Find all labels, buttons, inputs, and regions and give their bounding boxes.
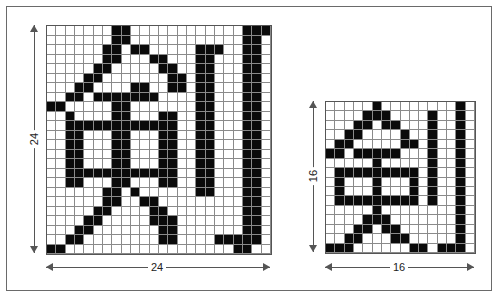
pixel-off [354,111,363,120]
pixel-off [224,245,233,255]
pixel-off [262,216,271,226]
pixel-off [56,64,65,74]
pixel-off [419,121,428,130]
pixel-off [47,226,56,236]
pixel-on [140,197,149,207]
pixel-on [112,169,121,179]
pixel-off [215,55,224,65]
pixel-on [326,244,335,253]
pixel-off [206,26,215,36]
pixel-off [47,121,56,131]
pixel-off [419,149,428,158]
pixel-off [262,207,271,217]
pixel-off [215,93,224,103]
pixel-on [456,225,465,234]
pixel-off [178,93,187,103]
pixel-off [66,83,75,93]
pixel-off [438,159,447,168]
pixel-off [262,102,271,112]
pixel-on [206,112,215,122]
pixel-off [187,159,196,169]
pixel-on [56,245,65,255]
pixel-off [84,64,93,74]
pixel-off [438,102,447,111]
pixel-on [252,36,261,46]
pixel-on [168,235,177,245]
pixel-on [243,207,252,217]
pixel-off [438,140,447,149]
pixel-off [262,226,271,236]
pixel-on [168,150,177,160]
pixel-off [447,168,456,177]
pixel-off [234,188,243,198]
pixel-on [103,45,112,55]
pixel-off [391,111,400,120]
pixel-off [122,216,131,226]
pixel-off [75,245,84,255]
pixel-off [178,64,187,74]
pixel-off [122,83,131,93]
pixel-off [466,178,475,187]
pixel-off [122,226,131,236]
pixel-off [94,235,103,245]
pixel-off [224,74,233,84]
pixel-on [196,112,205,122]
pixel-on [75,121,84,131]
pixel-off [150,102,159,112]
pixel-off [140,131,149,141]
pixel-off [150,131,159,141]
pixel-off [438,111,447,120]
pixel-off [438,149,447,158]
pixel-on [401,130,410,139]
pixel-off [56,55,65,65]
pixel-off [131,235,140,245]
pixel-on [94,64,103,74]
pixel-off [363,102,372,111]
pixel-on [382,196,391,205]
pixel-off [56,112,65,122]
pixel-off [466,140,475,149]
pixel-on [243,36,252,46]
pixel-on [112,159,121,169]
pixel-off [140,55,149,65]
pixel-off [363,130,372,139]
pixel-on [243,226,252,236]
pixel-on [206,64,215,74]
pixel-off [140,74,149,84]
pixel-off [215,64,224,74]
pixel-off [168,45,177,55]
pixel-off [224,36,233,46]
pixel-off [234,207,243,217]
pixel-on [428,178,437,187]
pixel-off [262,74,271,84]
pixel-off [94,140,103,150]
pixel-off [84,55,93,65]
pixel-off [215,140,224,150]
pixel-off [428,102,437,111]
pixel-off [150,26,159,36]
pixel-off [47,36,56,46]
pixel-off [438,225,447,234]
pixel-off [466,159,475,168]
pixel-off [75,36,84,46]
pixel-off [103,140,112,150]
pixel-off [131,197,140,207]
pixel-on [428,130,437,139]
pixel-off [262,64,271,74]
pixel-on [47,102,56,112]
pixel-off [438,130,447,139]
pixel-on [243,131,252,141]
pixel-on [373,206,382,215]
pixel-off [373,244,382,253]
pixel-off [56,26,65,36]
pixel-on [122,131,131,141]
pixel-off [47,159,56,169]
pixel-on [243,197,252,207]
pixel-off [168,207,177,217]
pixel-off [262,45,271,55]
pixel-off [326,159,335,168]
pixel-off [140,159,149,169]
pixel-on [373,102,382,111]
pixel-on [243,74,252,84]
pixel-off [84,26,93,36]
